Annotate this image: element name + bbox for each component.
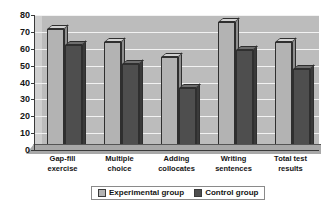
x-axis-category-label: Addingcollocates — [148, 154, 205, 174]
y-axis-tick-label: 70 — [0, 28, 30, 37]
bar-side-face — [310, 64, 314, 150]
legend-swatch-icon — [194, 189, 202, 197]
bar-front-face — [179, 88, 196, 150]
x-axis-category-label: Multiplechoice — [91, 154, 148, 174]
y-axis-line — [34, 15, 35, 151]
x-axis-label-line: Gap-fill — [34, 154, 91, 164]
y-axis-tick-label: 60 — [0, 45, 30, 54]
bar-front-face — [236, 50, 253, 150]
y-axis-tick-mark — [31, 99, 34, 100]
bar-front-face — [161, 57, 178, 150]
x-axis-label-line: Adding — [148, 154, 205, 164]
y-axis-tick-mark — [31, 32, 34, 33]
bar-experimental — [104, 42, 121, 150]
bar-side-face — [253, 46, 257, 150]
y-axis: 80706050403020100 — [0, 0, 32, 207]
bar-front-face — [47, 29, 64, 151]
plot-floor — [26, 144, 321, 154]
y-axis-tick-mark — [31, 150, 34, 151]
bar-experimental — [47, 29, 64, 151]
x-axis-category-label: Gap-fillexercise — [34, 154, 91, 174]
plot-area — [34, 15, 319, 150]
bar-side-face — [139, 59, 143, 150]
x-axis-category-label: Writingsentences — [205, 154, 262, 174]
y-axis-tick-label: 50 — [0, 62, 30, 71]
bar-experimental — [275, 42, 292, 150]
y-axis-tick-mark — [31, 116, 34, 117]
bar-front-face — [275, 42, 292, 150]
y-axis-tick-mark — [31, 15, 34, 16]
bar-front-face — [65, 45, 82, 150]
x-axis-label-line: Multiple — [91, 154, 148, 164]
legend-item-experimental: Experimental group — [98, 189, 184, 197]
y-axis-tick-label: 40 — [0, 79, 30, 88]
y-axis-tick-mark — [31, 133, 34, 134]
y-axis-tick-label: 20 — [0, 112, 30, 121]
x-axis-label-line: choice — [91, 164, 148, 174]
x-axis-label-line: Total test — [262, 154, 319, 164]
y-axis-tick-label: 10 — [0, 129, 30, 138]
legend-label: Control group — [205, 189, 258, 197]
bar-control — [122, 64, 139, 150]
y-axis-tick-mark — [31, 66, 34, 67]
bar-front-face — [104, 42, 121, 150]
bar-front-face — [218, 22, 235, 150]
x-axis-line — [34, 150, 319, 151]
bar-side-face — [196, 83, 200, 150]
bar-control — [236, 50, 253, 150]
y-axis-tick-label: 80 — [0, 11, 30, 20]
bar-front-face — [122, 64, 139, 150]
x-axis-label-line: Writing — [205, 154, 262, 164]
y-axis-tick-mark — [31, 83, 34, 84]
legend-swatch-icon — [98, 189, 106, 197]
bar-control — [65, 45, 82, 150]
bar-side-face — [82, 41, 86, 150]
x-axis-label-line: collocates — [148, 164, 205, 174]
bar-control — [293, 69, 310, 150]
x-axis-label-line: exercise — [34, 164, 91, 174]
legend-item-control: Control group — [194, 189, 258, 197]
legend-label: Experimental group — [109, 189, 184, 197]
bar-front-face — [293, 69, 310, 150]
x-axis-label-line: results — [262, 164, 319, 174]
x-axis-labels: Gap-fillexerciseMultiplechoiceAddingcoll… — [34, 154, 319, 180]
bar-chart: 80706050403020100 Gap-fillexerciseMultip… — [0, 0, 329, 207]
chart-legend: Experimental group Control group — [91, 186, 265, 200]
x-axis-category-label: Total testresults — [262, 154, 319, 174]
y-axis-tick-label: 30 — [0, 95, 30, 104]
bar-experimental — [161, 57, 178, 150]
x-axis-label-line: sentences — [205, 164, 262, 174]
bar-experimental — [218, 22, 235, 150]
bars-layer — [34, 15, 319, 150]
y-axis-tick-label: 0 — [0, 146, 30, 155]
y-axis-tick-mark — [31, 49, 34, 50]
bar-control — [179, 88, 196, 150]
